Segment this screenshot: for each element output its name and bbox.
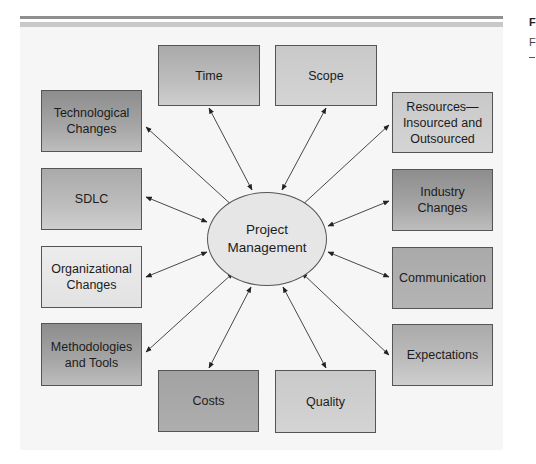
node-expectations: Expectations (392, 324, 493, 386)
arrow-scope (282, 108, 326, 190)
arrow-quality (283, 287, 326, 368)
node-resources: Resources— Insourced and Outsourced (392, 92, 493, 153)
node-organizational-changes: Organizational Changes (41, 246, 142, 308)
node-scope: Scope (275, 45, 377, 106)
center-project-management: Project Management (207, 192, 327, 286)
arrow-time (209, 108, 252, 190)
node-industry-changes: Industry Changes (392, 169, 493, 231)
arrow-resources (300, 125, 389, 207)
node-quality: Quality (275, 370, 376, 433)
arrow-expectations (302, 273, 389, 355)
node-communication: Communication (392, 247, 493, 309)
node-sdlc: SDLC (41, 168, 142, 230)
arrow-communication (328, 252, 389, 277)
arrow-costs (209, 287, 251, 368)
node-technological-changes: Technological Changes (41, 90, 142, 152)
arrow-methodologies-tools (146, 273, 233, 352)
node-methodologies-tools: Methodologies and Tools (41, 323, 142, 386)
arrow-sdlc (146, 197, 207, 222)
node-costs: Costs (158, 370, 259, 432)
arrow-technological-changes (146, 127, 235, 208)
arrow-industry-changes (328, 201, 389, 226)
arrow-organizational-changes (146, 252, 207, 277)
node-time: Time (158, 45, 260, 106)
